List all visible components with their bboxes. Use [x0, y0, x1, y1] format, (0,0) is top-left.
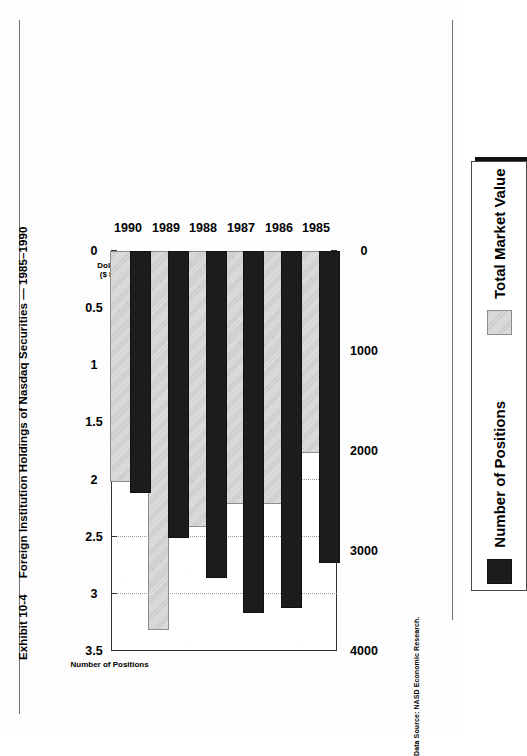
legend-item-total-market-value: Total Market Value [487, 168, 512, 335]
legend-item-number-of-positions: Number of Positions [487, 401, 512, 584]
category-label-1987: 1987 [222, 221, 260, 235]
positions-axis-tick-label: 3000 [340, 544, 388, 558]
category-label-1989: 1989 [147, 221, 185, 235]
dollar-axis-tick-label: 1 [78, 358, 110, 372]
category-label-1986: 1986 [260, 221, 298, 235]
positions-axis-tick-label: 1000 [340, 344, 388, 358]
dollar-axis-tick-label: 2.5 [78, 530, 110, 544]
category-label-1988: 1988 [184, 221, 222, 235]
legend-swatch-gray-icon [487, 310, 512, 335]
positions-axis-tick [331, 650, 337, 651]
dollar-axis-tick-label: 3 [78, 587, 110, 601]
bar-number-of-positions [206, 251, 227, 578]
gridline [111, 593, 337, 594]
dollar-axis-tick [111, 593, 117, 594]
bar-number-of-positions [168, 251, 189, 538]
source-note: Data Source: NASD Economic Research. [413, 536, 427, 756]
exhibit-title-block: Exhibit 10-4 Foreign Institution Holding… [12, 0, 34, 660]
legend-box: Number of Positions Total Market Value [471, 161, 527, 591]
page-rule-right [452, 20, 453, 620]
dollar-axis-tick-label: 0.5 [78, 301, 110, 315]
dollar-axis-tick-label: 2 [78, 473, 110, 487]
bar-number-of-positions [281, 251, 302, 608]
bar-number-of-positions [243, 251, 264, 613]
dollar-axis-tick [111, 650, 117, 651]
exhibit-number: Exhibit 10-4 [17, 594, 29, 660]
category-label-1985: 1985 [297, 221, 335, 235]
page-title: Foreign Institution Holdings of Nasdaq S… [17, 226, 29, 578]
chart-plot-inner: Dollar Value ($ Billions) Number of Posi… [83, 187, 379, 705]
dollar-axis-tick-label: 3.5 [78, 644, 110, 658]
chart-legend: Number of Positions Total Market Value [471, 161, 527, 591]
positions-axis-tick-label: 4000 [340, 644, 388, 658]
bar-number-of-positions [319, 251, 340, 563]
legend-swatch-black-icon [487, 559, 512, 584]
dollar-axis-tick-label: 0 [78, 244, 110, 258]
positions-axis-caption: Number of Positions [64, 660, 156, 669]
legend-label-total-market-value: Total Market Value [491, 168, 508, 299]
bar-total-market-value [110, 251, 131, 482]
chart-canvas: Dollar Value ($ Billions) Number of Posi… [83, 187, 379, 705]
positions-axis-tick-label: 0 [340, 244, 388, 258]
category-label-1990: 1990 [109, 221, 147, 235]
bar-number-of-positions [130, 251, 151, 493]
positions-axis-tick-label: 2000 [340, 444, 388, 458]
dollar-axis-tick [111, 536, 117, 537]
dollar-axis-tick-label: 1.5 [78, 415, 110, 429]
legend-label-number-of-positions: Number of Positions [491, 401, 508, 548]
